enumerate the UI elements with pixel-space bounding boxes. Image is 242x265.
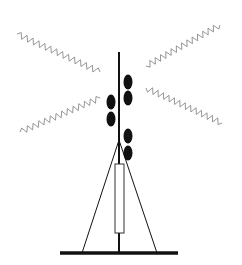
guy-wire bbox=[82, 140, 119, 253]
diagram-canvas bbox=[0, 0, 242, 265]
antenna-panel bbox=[124, 129, 133, 144]
equipment-box bbox=[115, 164, 124, 233]
wave-lower-right bbox=[146, 88, 222, 125]
antenna-panel bbox=[124, 75, 133, 90]
wave-upper-left bbox=[17, 33, 100, 72]
antenna-panel bbox=[107, 95, 116, 110]
wave-lower-left bbox=[20, 97, 100, 133]
antenna-panel bbox=[124, 91, 133, 106]
antenna-panel bbox=[124, 146, 133, 161]
antenna-diagram bbox=[0, 0, 242, 265]
antenna-panel bbox=[107, 112, 116, 127]
wave-upper-right bbox=[146, 25, 220, 67]
